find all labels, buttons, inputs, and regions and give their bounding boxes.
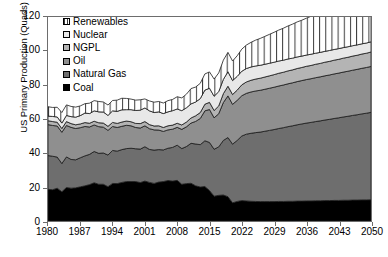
- x-tick-mark: [112, 222, 113, 226]
- y-tick-label: 100: [8, 45, 40, 55]
- x-tick-mark: [80, 222, 81, 226]
- y-tick-label: 80: [8, 80, 40, 90]
- legend-item-coal[interactable]: Coal: [63, 81, 128, 94]
- legend-label: Renewables: [73, 17, 128, 27]
- legend-label: Natural Gas: [73, 69, 126, 79]
- y-tick-label: 40: [8, 148, 40, 158]
- x-tick-mark: [210, 222, 211, 226]
- legend-item-oil[interactable]: Oil: [63, 55, 128, 68]
- y-tick-label: 60: [8, 114, 40, 124]
- x-tick-mark: [275, 222, 276, 226]
- x-tick-mark: [340, 222, 341, 226]
- legend-swatch-icon: [63, 84, 70, 91]
- legend-label: Oil: [73, 56, 85, 66]
- legend-swatch-icon: [63, 44, 70, 51]
- y-axis-title: US Primary Production (Quads): [18, 0, 29, 153]
- legend-swatch-icon: [63, 31, 70, 38]
- x-tick-mark: [242, 222, 243, 226]
- x-tick-mark: [177, 222, 178, 226]
- legend-swatch-icon: [63, 58, 70, 65]
- x-tick-mark: [307, 222, 308, 226]
- chart-legend: RenewablesNuclearNGPLOilNatural GasCoal: [63, 15, 128, 94]
- legend-item-natural-gas[interactable]: Natural Gas: [63, 68, 128, 81]
- legend-item-nuclear[interactable]: Nuclear: [63, 28, 128, 41]
- x-tick-mark: [47, 222, 48, 226]
- legend-label: Nuclear: [73, 30, 107, 40]
- x-tick-mark: [145, 222, 146, 226]
- y-tick-label: 120: [8, 11, 40, 21]
- legend-swatch-icon: [63, 18, 70, 25]
- legend-item-ngpl[interactable]: NGPL: [63, 41, 128, 54]
- legend-label: NGPL: [73, 43, 100, 53]
- legend-label: Coal: [73, 83, 94, 93]
- chart-container: US Primary Production (Quads) 0204060801…: [0, 0, 388, 257]
- legend-swatch-icon: [63, 71, 70, 78]
- x-tick-label: 2050: [352, 227, 388, 237]
- y-tick-label: 20: [8, 183, 40, 193]
- x-tick-mark: [372, 222, 373, 226]
- legend-item-renewables[interactable]: Renewables: [63, 15, 128, 28]
